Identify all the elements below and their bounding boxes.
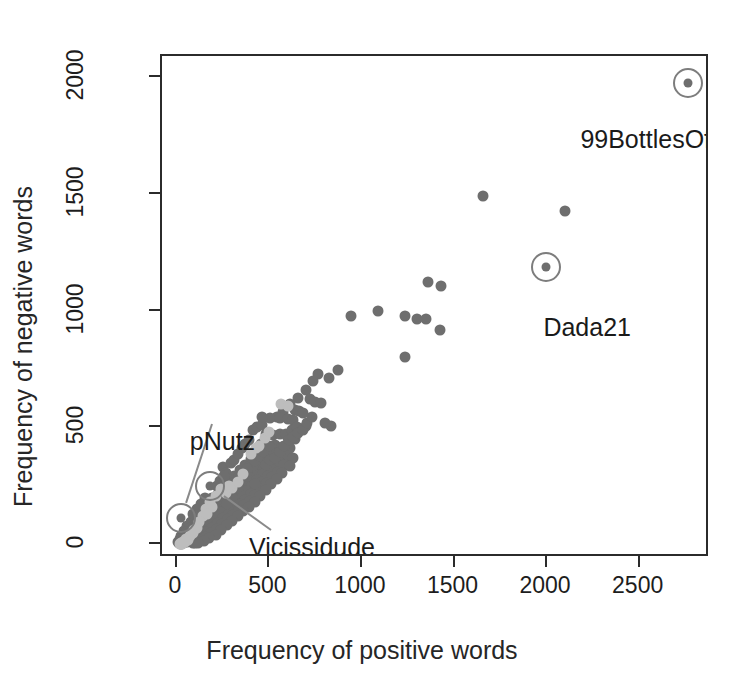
y-axis-title: Frequency of negative words — [0, 0, 46, 693]
y-tick-mark — [149, 425, 160, 427]
data-point — [323, 373, 334, 384]
data-point — [399, 352, 410, 363]
x-tick-label: 1000 — [315, 572, 405, 599]
y-tick-mark — [149, 542, 160, 544]
data-point — [249, 479, 260, 490]
data-point — [559, 206, 570, 217]
data-point — [297, 408, 308, 419]
x-tick-label: 0 — [130, 572, 220, 599]
annotation-label: Dada21 — [543, 313, 631, 342]
x-tick-label: 1500 — [408, 572, 498, 599]
data-point — [264, 426, 275, 437]
data-point — [422, 277, 433, 288]
data-point — [174, 538, 185, 549]
x-tick-mark — [638, 556, 640, 567]
highlighted-data-point — [542, 263, 551, 272]
highlighted-data-point — [206, 481, 215, 490]
data-point — [345, 311, 356, 322]
scatter-plot-figure: Frequency of negative words Frequency of… — [0, 0, 744, 693]
x-tick-label: 500 — [222, 572, 312, 599]
x-tick-label: 2500 — [593, 572, 683, 599]
plot-area: 99BottlesOfBeerInMyFDada21pNutzVicissidu… — [160, 54, 708, 556]
highlighted-data-point — [176, 514, 185, 523]
highlighted-data-point — [683, 78, 692, 87]
data-point — [435, 280, 446, 291]
x-tick-mark — [267, 556, 269, 567]
x-tick-mark — [453, 556, 455, 567]
annotation-label: Vicissidude — [249, 533, 375, 556]
annotation-label: 99BottlesOfBeerInMyF — [580, 125, 708, 154]
data-point — [420, 313, 431, 324]
y-tick-label: 2000 — [61, 5, 89, 145]
data-point — [434, 325, 445, 336]
data-point — [319, 417, 330, 428]
data-point — [372, 305, 383, 316]
data-point — [256, 411, 267, 422]
y-tick-mark — [149, 309, 160, 311]
data-point — [193, 538, 204, 549]
annotation-label: pNutz — [190, 427, 255, 456]
x-tick-mark — [360, 556, 362, 567]
x-tick-mark — [545, 556, 547, 567]
x-axis-title: Frequency of positive words — [0, 636, 744, 665]
data-point — [237, 468, 248, 479]
data-point — [316, 397, 327, 408]
data-point — [202, 508, 213, 519]
data-point — [332, 365, 343, 376]
x-tick-mark — [175, 556, 177, 567]
data-point — [400, 311, 411, 322]
data-point — [478, 191, 489, 202]
y-tick-mark — [149, 75, 160, 77]
data-point — [282, 401, 293, 412]
y-tick-mark — [149, 192, 160, 194]
x-tick-label: 2000 — [500, 572, 590, 599]
